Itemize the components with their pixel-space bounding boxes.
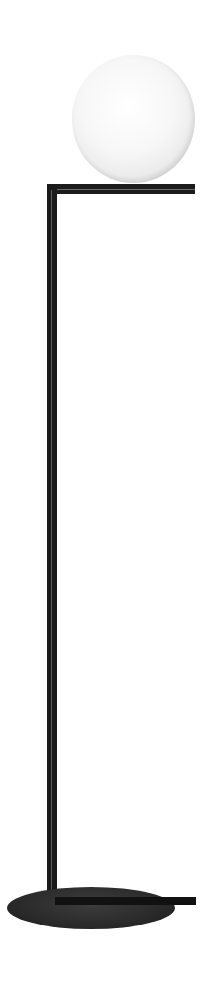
product-photo	[0, 0, 216, 995]
glass-globe-shade	[72, 55, 195, 183]
round-base	[7, 887, 175, 929]
base-foot-bar	[55, 897, 196, 905]
arm-highlight	[52, 189, 195, 190]
lamp-pole	[47, 184, 57, 902]
pole-highlight	[51, 190, 52, 902]
